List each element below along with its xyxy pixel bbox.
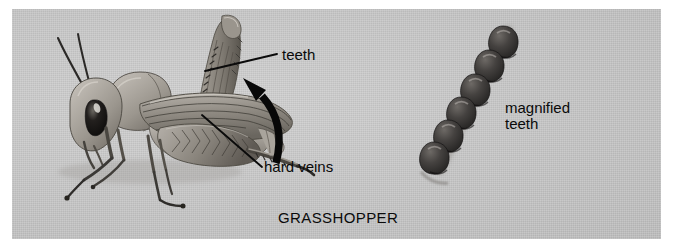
- magnified-teeth-row: [420, 26, 519, 183]
- caption-grasshopper: GRASSHOPPER: [278, 210, 398, 225]
- label-hard-veins: hard veins: [264, 159, 333, 174]
- figure-grasshopper-teeth: teeth hard veins magnified teeth GRASSHO…: [0, 0, 673, 250]
- label-magnified-teeth: magnified teeth: [505, 100, 570, 132]
- tooth: [420, 142, 450, 174]
- label-teeth: teeth: [282, 47, 315, 62]
